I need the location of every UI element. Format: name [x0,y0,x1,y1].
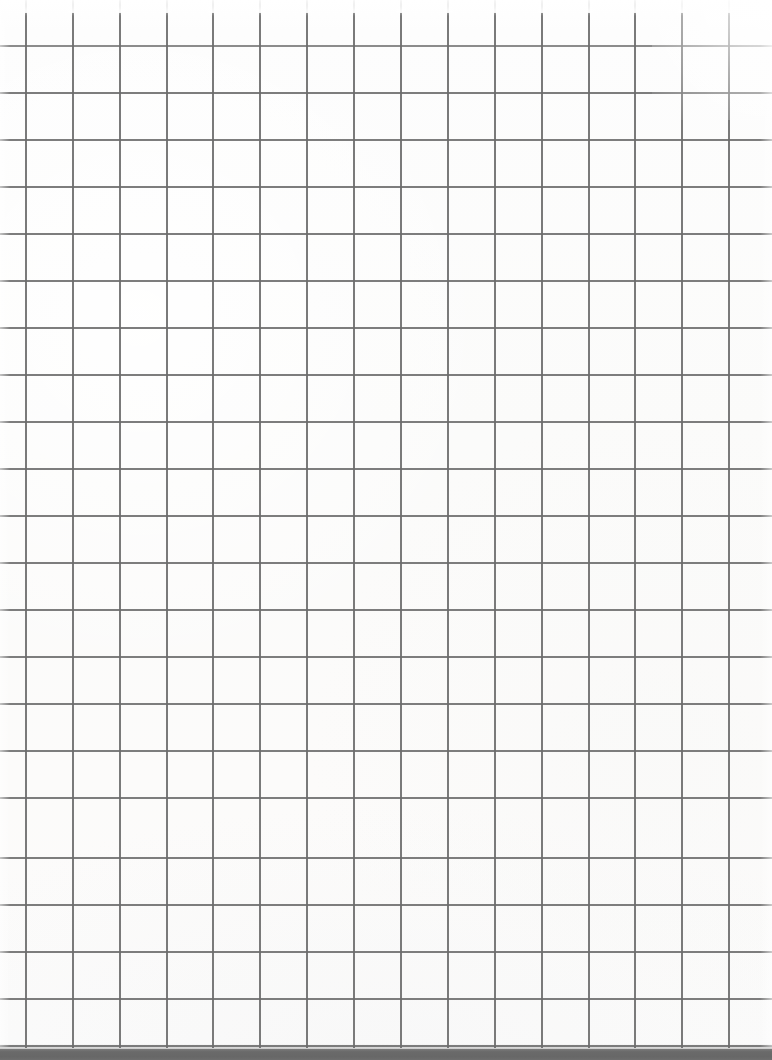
scanner-edge-bar [0,1049,772,1060]
paper-surface [0,0,772,1060]
grid-paper-scan [0,0,772,1060]
